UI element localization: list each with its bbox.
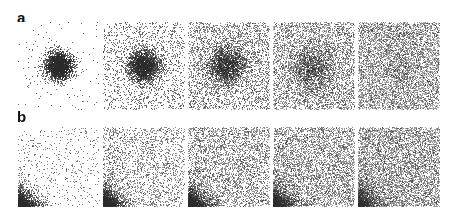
scatter-panel-a-4: [273, 22, 355, 110]
scatter-panel-a-3: [188, 22, 270, 110]
scatter-panel-a-5: [358, 22, 440, 110]
scatter-panel-b-1: [18, 127, 100, 207]
scatter-panel-a-1: [18, 22, 100, 110]
scatter-panel-b-4: [273, 127, 355, 207]
scatter-panel-b-5: [358, 127, 440, 207]
scatter-panel-b-2: [103, 127, 185, 207]
scatter-panel-a-2: [103, 22, 185, 110]
scatter-panel-b-3: [188, 127, 270, 207]
figure-root: a b: [0, 0, 459, 217]
panel-label-b: b: [17, 109, 26, 124]
